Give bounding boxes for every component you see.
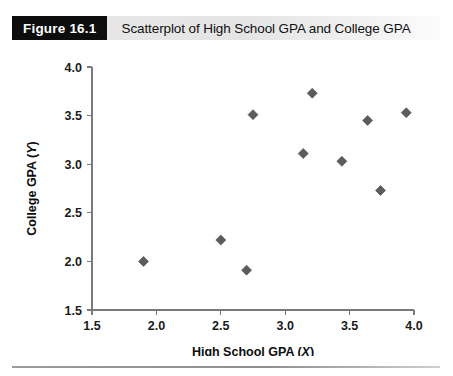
data-point-marker: [307, 88, 317, 98]
data-point-marker: [139, 256, 149, 266]
data-point-marker: [216, 235, 226, 245]
y-tick-label: 3.0: [65, 158, 82, 172]
data-point-marker: [248, 110, 258, 120]
data-point-marker: [363, 115, 373, 125]
y-tick-label: 3.5: [65, 109, 82, 123]
data-point-group: [139, 88, 412, 275]
y-tick-label: 2.5: [65, 206, 82, 220]
scatterplot-chart: 1.52.02.53.03.54.0 1.52.02.53.03.54.0 Co…: [0, 46, 453, 356]
data-point-marker: [337, 156, 347, 166]
y-axis-ticks: 1.52.02.53.03.54.0: [65, 61, 92, 318]
data-point-marker: [376, 185, 386, 195]
figure-bottom-rule: [12, 366, 440, 368]
chart-canvas: 1.52.02.53.03.54.0 1.52.02.53.03.54.0 Co…: [0, 46, 453, 356]
x-axis-title: High School GPA (X): [192, 345, 314, 356]
x-axis-ticks: 1.52.02.53.03.54.0: [83, 310, 422, 333]
x-tick-label: 3.5: [341, 319, 358, 333]
y-tick-label: 1.5: [65, 304, 82, 318]
x-tick-label: 1.5: [83, 319, 100, 333]
y-axis-title-text: College GPA (Y): [25, 141, 39, 235]
x-tick-label: 4.0: [405, 319, 422, 333]
x-tick-label: 2.0: [148, 319, 165, 333]
x-tick-label: 2.5: [212, 319, 229, 333]
data-point-marker: [298, 149, 308, 159]
figure-caption: Scatterplot of High School GPA and Colle…: [107, 16, 410, 40]
y-tick-label: 4.0: [65, 61, 82, 75]
figure-header: Figure 16.1 Scatterplot of High School G…: [12, 16, 440, 40]
data-point-marker: [401, 108, 411, 118]
data-point-marker: [242, 265, 252, 275]
y-tick-label: 2.0: [65, 255, 82, 269]
x-tick-label: 3.0: [277, 319, 294, 333]
figure-number-badge: Figure 16.1: [12, 16, 107, 40]
x-axis-title-text: High School GPA (X): [192, 345, 314, 356]
y-axis-title: College GPA (Y): [25, 141, 39, 235]
